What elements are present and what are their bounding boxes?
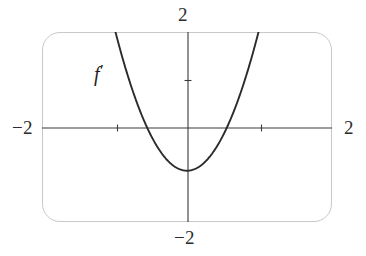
axis-label-x-max: 2 <box>344 118 354 137</box>
curve-annotation-prime: ′ <box>100 61 104 80</box>
curve-annotation-f-prime: f′ <box>94 62 104 84</box>
axis-label-y-min: −2 <box>174 228 195 247</box>
graph-figure: −2 2 2 −2 f′ <box>0 0 366 256</box>
plot-canvas <box>0 0 366 256</box>
curve-annotation-name: f <box>94 63 100 85</box>
axis-label-x-min: −2 <box>12 118 33 137</box>
curve-f-prime <box>106 0 268 171</box>
axis-label-y-max: 2 <box>178 5 188 24</box>
